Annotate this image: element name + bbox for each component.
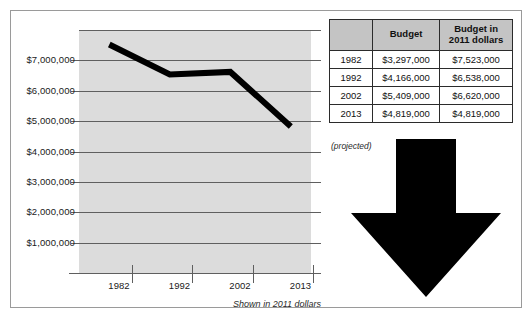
table-cell-budget-2011: $6,620,000	[440, 86, 513, 104]
chart-caption: Shown in 2011 dollars	[161, 299, 321, 309]
table-cell-budget-2011: $4,819,000	[440, 104, 513, 122]
table-header-corner	[330, 20, 373, 51]
line-chart: $1,000,000$2,000,000$3,000,000$4,000,000…	[11, 11, 329, 309]
table-cell-year: 1982	[330, 50, 373, 68]
table-row: 2002$5,409,000$6,620,000	[330, 86, 513, 104]
table-row: 1992$4,166,000$6,538,000	[330, 68, 513, 86]
table-row: 2013$4,819,000$4,819,000	[330, 104, 513, 122]
table-cell-budget: $4,819,000	[373, 104, 440, 122]
table-cell-budget: $5,409,000	[373, 86, 440, 104]
table-cell-year: 2013	[330, 104, 373, 122]
budget-table: Budget Budget in 2011 dollars 1982$3,297…	[329, 19, 513, 123]
table-cell-budget: $4,166,000	[373, 68, 440, 86]
table-header-budget: Budget	[373, 20, 440, 51]
down-arrow-icon	[341, 139, 511, 301]
table-cell-budget-2011: $6,538,000	[440, 68, 513, 86]
table-header-budget-2011-line1: Budget in	[454, 23, 498, 34]
table-body: 1982$3,297,000$7,523,0001992$4,166,000$6…	[330, 50, 513, 122]
table-cell-budget-2011: $7,523,000	[440, 50, 513, 68]
table-header-budget-2011-line2: 2011 dollars	[449, 34, 503, 45]
table-header-budget-2011: Budget in 2011 dollars	[440, 20, 513, 51]
chart-data-line	[11, 11, 329, 309]
table-row: 1982$3,297,000$7,523,000	[330, 50, 513, 68]
table-cell-budget: $3,297,000	[373, 50, 440, 68]
table-cell-year: 2002	[330, 86, 373, 104]
table-cell-year: 1992	[330, 68, 373, 86]
table-header-row: Budget Budget in 2011 dollars	[330, 20, 513, 51]
figure-frame: $1,000,000$2,000,000$3,000,000$4,000,000…	[10, 10, 522, 308]
